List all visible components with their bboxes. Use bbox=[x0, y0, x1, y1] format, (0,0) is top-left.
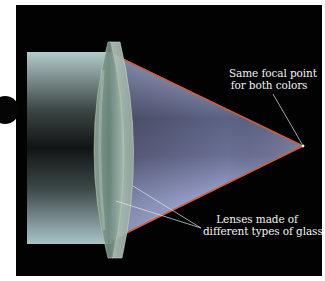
focal-point-label: Same focal point for both colors bbox=[229, 67, 309, 91]
focal-point-label-line1: Same focal point bbox=[229, 67, 309, 79]
achromatic-lens-diagram: Same focal point for both colors Lenses … bbox=[0, 0, 325, 281]
lenses-label: Lenses made of different types of glass bbox=[203, 213, 311, 237]
lenses-label-line2: different types of glass bbox=[203, 225, 311, 237]
focal-point bbox=[302, 145, 305, 148]
lenses-label-line1: Lenses made of bbox=[203, 213, 311, 225]
page-tab-circle bbox=[0, 96, 19, 124]
focal-point-label-line2: for both colors bbox=[229, 79, 309, 91]
diagram-graphics bbox=[0, 0, 325, 281]
